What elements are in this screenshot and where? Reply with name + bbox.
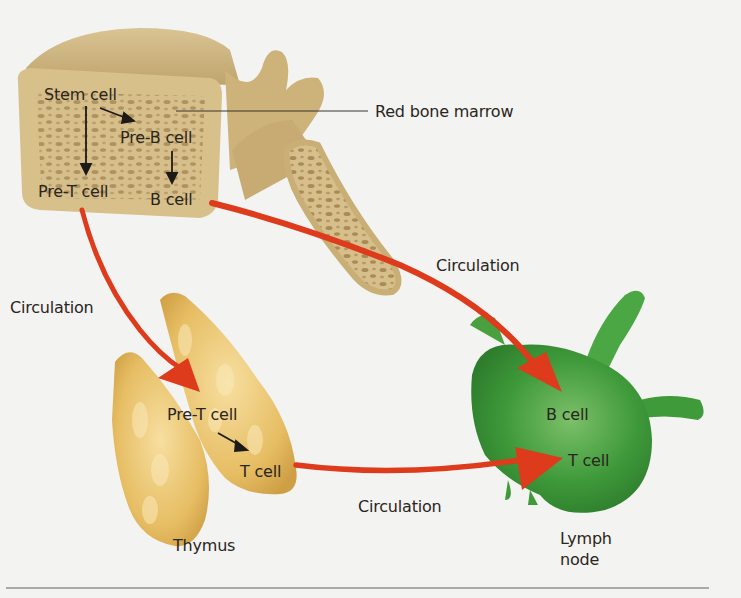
b-cell-marrow-label: B cell <box>150 191 192 209</box>
circulation-label-bottom: Circulation <box>358 498 441 516</box>
pre-t-cell-thymus-label: Pre-T cell <box>167 406 237 424</box>
pre-t-cell-marrow-label: Pre-T cell <box>38 183 108 201</box>
vertebra-illustration <box>18 28 399 292</box>
thymus-label: Thymus <box>173 537 235 555</box>
lymph-node-label-line1: Lymph <box>560 530 612 548</box>
pre-b-cell-label: Pre-B cell <box>120 129 192 147</box>
lymph-node-illustration <box>470 291 704 513</box>
bottom-divider <box>6 587 709 589</box>
lymphocyte-origin-diagram: Stem cell Pre-B cell Pre-T cell B cell R… <box>0 0 741 598</box>
t-cell-thymus-label: T cell <box>240 463 281 481</box>
stem-cell-label: Stem cell <box>44 86 117 104</box>
b-cell-lymph-label: B cell <box>546 406 588 424</box>
lymph-node-label-line2: node <box>560 551 599 569</box>
circulation-label-left: Circulation <box>10 299 93 317</box>
circulation-label-right: Circulation <box>436 257 519 275</box>
t-cell-lymph-label: T cell <box>568 452 609 470</box>
red-bone-marrow-label: Red bone marrow <box>375 103 513 121</box>
